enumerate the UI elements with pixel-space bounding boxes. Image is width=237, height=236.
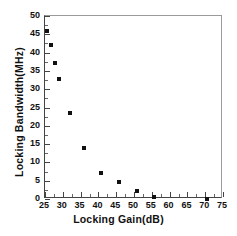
y-tick-minor bbox=[45, 172, 48, 173]
x-tick-label: 70 bbox=[199, 200, 209, 210]
x-tick-minor bbox=[214, 194, 215, 197]
y-tick-label: 35 bbox=[30, 65, 40, 75]
y-tick bbox=[45, 89, 50, 90]
x-tick-label: 45 bbox=[110, 200, 120, 210]
y-tick-label: 45 bbox=[30, 28, 40, 38]
data-point bbox=[82, 146, 86, 150]
x-tick-minor bbox=[179, 194, 180, 197]
x-tick-minor bbox=[196, 194, 197, 197]
y-tick-label: 20 bbox=[30, 120, 40, 130]
x-tick-label: 30 bbox=[57, 200, 67, 210]
x-tick bbox=[81, 192, 82, 197]
x-tick-minor bbox=[143, 194, 144, 197]
y-tick-label: 40 bbox=[30, 47, 40, 57]
y-tick bbox=[45, 71, 50, 72]
data-point bbox=[57, 77, 61, 81]
y-axis-title: Locking Bandwidth(MHz) bbox=[13, 32, 25, 192]
y-tick bbox=[45, 16, 50, 17]
x-tick bbox=[45, 192, 46, 197]
data-point bbox=[135, 189, 139, 193]
x-tick-label: 25 bbox=[39, 200, 49, 210]
x-tick bbox=[63, 192, 64, 197]
y-tick-label: 25 bbox=[30, 102, 40, 112]
y-tick-label: 15 bbox=[30, 138, 40, 148]
x-tick-minor bbox=[72, 194, 73, 197]
x-tick-minor bbox=[54, 194, 55, 197]
data-point bbox=[99, 171, 103, 175]
x-tick-label: 60 bbox=[164, 200, 174, 210]
y-tick-minor bbox=[45, 62, 48, 63]
y-tick-minor bbox=[45, 25, 48, 26]
x-tick-label: 40 bbox=[92, 200, 102, 210]
x-tick-minor bbox=[161, 194, 162, 197]
y-tick bbox=[45, 53, 50, 54]
data-point bbox=[53, 61, 57, 65]
y-tick bbox=[45, 162, 50, 163]
y-tick-minor bbox=[45, 98, 48, 99]
data-point bbox=[68, 111, 72, 115]
y-tick-label: 50 bbox=[30, 10, 40, 20]
x-tick bbox=[116, 192, 117, 197]
y-tick bbox=[45, 144, 50, 145]
x-tick bbox=[98, 192, 99, 197]
y-tick-minor bbox=[45, 43, 48, 44]
data-point bbox=[45, 29, 49, 33]
y-tick-minor bbox=[45, 190, 48, 191]
y-tick-minor bbox=[45, 135, 48, 136]
data-point bbox=[117, 180, 121, 184]
x-tick-label: 50 bbox=[128, 200, 138, 210]
y-tick-label: 30 bbox=[30, 83, 40, 93]
plot-area bbox=[44, 15, 222, 198]
x-tick-label: 65 bbox=[181, 200, 191, 210]
y-tick-label: 0 bbox=[35, 193, 40, 203]
x-axis-title: Locking Gain(dB) bbox=[0, 213, 237, 225]
x-tick-minor bbox=[90, 194, 91, 197]
x-tick-minor bbox=[107, 194, 108, 197]
x-tick bbox=[223, 192, 224, 197]
y-tick bbox=[45, 108, 50, 109]
y-tick bbox=[45, 126, 50, 127]
y-tick bbox=[45, 34, 50, 35]
x-tick-minor bbox=[125, 194, 126, 197]
data-point bbox=[49, 43, 53, 47]
x-tick-label: 75 bbox=[217, 200, 227, 210]
y-tick-minor bbox=[45, 117, 48, 118]
y-tick-label: 5 bbox=[35, 175, 40, 185]
chart-figure: Locking Gain(dB) Locking Bandwidth(MHz) … bbox=[0, 0, 237, 236]
x-tick bbox=[134, 192, 135, 197]
x-tick bbox=[187, 192, 188, 197]
y-tick-label: 10 bbox=[30, 156, 40, 166]
y-tick-minor bbox=[45, 80, 48, 81]
x-tick bbox=[170, 192, 171, 197]
y-tick bbox=[45, 181, 50, 182]
data-point bbox=[152, 195, 156, 199]
x-tick-label: 55 bbox=[146, 200, 156, 210]
x-tick-label: 35 bbox=[75, 200, 85, 210]
y-tick-minor bbox=[45, 153, 48, 154]
